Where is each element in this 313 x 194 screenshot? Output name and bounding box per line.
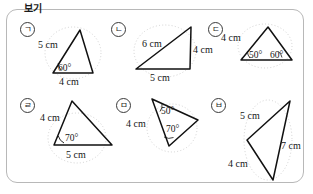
item-marker-d: ㄹ [20,98,35,113]
item-marker-a: ㄱ [20,22,35,37]
label-d-angle: 70° [65,133,78,144]
label-b-side3: 5 cm [150,72,170,83]
triangle-d-shape [54,101,112,145]
label-f-side1: 5 cm [240,110,260,121]
angle-arc-d [58,136,64,143]
triangles-drawing [0,0,313,194]
label-a-side2: 4 cm [59,76,79,87]
label-f-side3: 4 cm [228,158,248,169]
label-d-side2: 5 cm [66,149,86,160]
label-b-side1: 6 cm [142,38,162,49]
label-b-side2: 4 cm [193,44,213,55]
triangle-e-shape [152,99,198,146]
label-c-side1: 4 cm [221,32,241,43]
item-marker-b: ㄴ [111,22,126,37]
figure-page: 보기 ㄱ ㄴ ㄷ ㄹ ㅁ ㅂ 5 cm 60° 4 cm 6 cm [0,0,313,194]
label-c-angle1: 50° [249,50,262,61]
item-marker-e: ㅁ [116,98,131,113]
label-a-angle: 60° [58,63,71,74]
label-e-angle2: 70° [166,124,179,135]
label-e-side1: 4 cm [126,118,146,129]
label-d-side1: 4 cm [40,112,60,123]
label-e-angle1: 50° [161,106,174,117]
item-marker-f: ㅂ [211,98,226,113]
label-f-side2: 7 cm [281,140,301,151]
label-c-angle2: 60° [270,50,283,61]
label-a-side1: 5 cm [38,39,58,50]
